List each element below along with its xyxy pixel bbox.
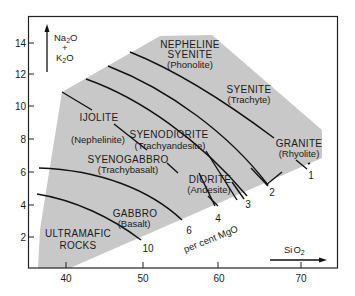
x-axis-ticks [66,262,301,268]
label-phonolite: (Phonolite) [167,59,213,70]
mgo-6: 6 [186,225,192,236]
y-tick-10: 10 [15,101,27,112]
label-trachybasalt: (Trachybasalt) [98,164,158,175]
mgo-1: 1 [308,170,314,181]
label-nephelinite: (Nephelinite) [71,134,125,145]
rock-classification-diagram: 2 4 6 8 10 12 14 40 50 60 70 Na2O + K2O … [0,0,355,296]
y-tick-4: 4 [20,200,26,211]
y-axis-label: Na2O + K2O [45,24,78,72]
label-trachyte: (Trachyte) [228,94,271,105]
x-tick-50: 50 [137,273,149,284]
mgo-4: 4 [215,213,221,224]
x-tick-40: 40 [60,273,72,284]
y-tick-6: 6 [20,167,26,178]
mgo-3: 3 [245,199,251,210]
y-tick-8: 8 [20,134,26,145]
y-axis-tick-labels: 2 4 6 8 10 12 14 [15,38,27,243]
y-tick-12: 12 [15,69,27,80]
x-axis-tick-labels: 40 50 60 70 [60,273,307,284]
y-tick-2: 2 [20,232,26,243]
svg-text:SiO2: SiO2 [284,244,305,256]
label-rocks: ROCKS [59,240,96,251]
label-syenodiorite: SYENODIORITE [129,129,208,140]
label-trachyandesite: (Trachyandesite) [135,140,206,151]
label-ijolite: IJOLITE [80,112,119,123]
right-arrow-icon [319,258,327,263]
x-tick-70: 70 [295,273,307,284]
y-tick-14: 14 [15,38,27,49]
svg-text:K2O: K2O [56,52,74,64]
x-tick-60: 60 [213,273,225,284]
label-basalt: (Basalt) [118,218,151,229]
up-arrow-icon [45,24,50,32]
label-andesite: (Andesite) [187,184,230,195]
x-axis-label: SiO2 [270,244,327,263]
label-ultramafic: ULTRAMAFIC [45,228,111,239]
mgo-2: 2 [269,187,275,198]
label-rhyolite: (Rhyolite) [279,148,320,159]
mgo-10: 10 [142,243,154,254]
